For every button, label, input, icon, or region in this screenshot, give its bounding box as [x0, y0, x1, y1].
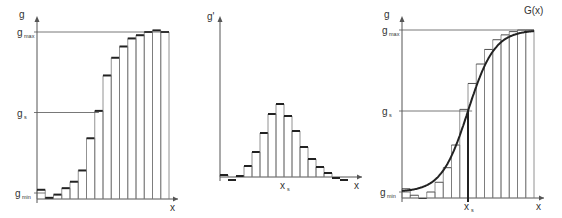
xs-label-sub: s — [471, 207, 474, 213]
x-axis-label: x — [536, 201, 541, 212]
xs-label-main: x — [464, 201, 469, 212]
curve-label: G(x) — [524, 5, 543, 16]
gmax-label: gmax — [382, 25, 400, 37]
bar — [268, 114, 276, 177]
bar — [324, 173, 332, 177]
bar — [252, 152, 260, 177]
x-axis-arrow — [539, 196, 544, 201]
bar — [87, 138, 95, 199]
gs-label: gs — [382, 106, 392, 118]
panel-3: gxgmaxgsgminxsG(x) — [380, 5, 544, 213]
xs-label: xs — [464, 201, 474, 213]
bar — [332, 177, 340, 178]
gmin-label: gmin — [380, 187, 396, 199]
bar — [45, 198, 53, 199]
bar — [78, 170, 86, 199]
bar — [292, 131, 300, 177]
bar — [120, 46, 128, 199]
panel-1: gxgmaxgsgmin — [15, 9, 178, 213]
y-axis-label: g — [19, 9, 25, 20]
x-axis-arrow — [357, 175, 362, 180]
bar — [144, 32, 152, 199]
xs-label-sub: s — [287, 186, 290, 192]
y-axis-label: g' — [207, 11, 215, 22]
bar — [443, 168, 451, 198]
panel-2: g'xxs — [207, 11, 362, 192]
gmax-label-main: g — [17, 27, 23, 38]
bar — [493, 40, 501, 198]
bar — [501, 35, 509, 198]
bar — [518, 30, 526, 198]
y-axis-arrow — [35, 16, 40, 22]
bar — [136, 35, 144, 199]
bar — [111, 58, 119, 199]
bar — [260, 133, 268, 177]
bar — [244, 166, 252, 177]
bar — [161, 32, 169, 199]
gmin-label-sub: min — [22, 194, 31, 200]
bar — [526, 30, 534, 198]
gmax-label: gmax — [17, 27, 35, 39]
xs-label: xs — [280, 180, 290, 192]
gs-label: gs — [17, 108, 27, 120]
bar — [103, 75, 111, 199]
gmin-label-main: g — [380, 187, 386, 198]
bar — [37, 190, 45, 199]
bar — [153, 30, 161, 199]
bar — [128, 38, 136, 199]
gmax-label-sub: max — [24, 33, 35, 39]
bar — [316, 167, 324, 177]
gs-label-sub: s — [389, 112, 392, 118]
bar — [427, 192, 435, 198]
bar — [62, 188, 70, 199]
figure: gxgmaxgsgming'xxsgxgmaxgsgminxsG(x) — [0, 0, 562, 218]
xs-label-main: x — [280, 180, 285, 191]
y-axis-label: g — [384, 9, 390, 20]
gmax-label-sub: max — [389, 31, 400, 37]
bar — [284, 116, 292, 177]
bar — [236, 176, 244, 177]
bar — [70, 182, 78, 199]
bar — [509, 32, 517, 198]
x-axis-label: x — [170, 202, 175, 213]
x-axis-label: x — [354, 180, 359, 191]
bar — [308, 159, 316, 177]
gs-label-sub: s — [24, 114, 27, 120]
gmax-label-main: g — [382, 25, 388, 36]
gs-label-main: g — [17, 108, 23, 119]
bar — [95, 111, 103, 199]
bar — [276, 104, 284, 177]
gs-label-main: g — [382, 106, 388, 117]
x-axis-arrow — [173, 197, 178, 202]
y-axis-arrow — [400, 16, 405, 22]
gmin-label-sub: min — [387, 193, 396, 199]
bar — [300, 147, 308, 177]
y-axis-arrow — [218, 16, 223, 22]
bar — [54, 195, 62, 199]
bar — [435, 182, 443, 198]
gmin-label-main: g — [15, 188, 21, 199]
gmin-label: gmin — [15, 188, 31, 200]
bar — [485, 49, 493, 198]
